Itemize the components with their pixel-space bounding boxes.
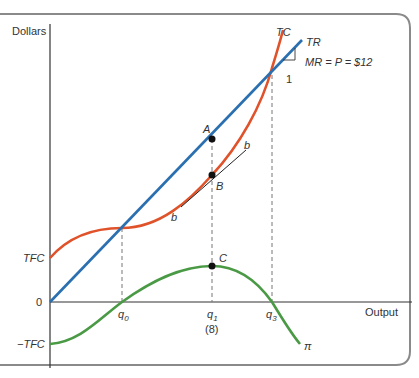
y-axis-label: Dollars [12,25,47,37]
point-a-marker [209,136,216,143]
tr-label: TR [306,36,321,48]
tangent-b-upper-label: b [244,139,250,151]
point-c-label: C [219,252,227,264]
mr-equation-label: MR = P = $12 [305,56,372,68]
profit-max-chart: Dollars Output TFC 0 −TFC q0 q1 (8) q3 T… [0,0,419,378]
slope-run-label: 1 [286,73,292,85]
tangent-b-lower-label: b [171,211,177,223]
q1-value-label: (8) [205,323,218,335]
point-c-marker [209,263,216,270]
point-b-marker [209,172,216,179]
q1-label: q1 [207,308,218,323]
pi-label-visible: π [304,340,312,352]
q3-label: q3 [266,308,277,323]
x-axis-label: Output [365,306,398,318]
point-a-label: A [202,123,210,135]
origin-label: 0 [36,296,42,308]
neg-tfc-label: −TFC [17,338,45,350]
profit-curve [50,266,300,344]
tr-line [50,40,302,302]
tfc-label: TFC [23,252,44,264]
tc-label: TC [276,26,291,38]
tangent-line-bb [181,150,246,207]
q0-label: q0 [118,308,129,323]
point-b-label: B [216,180,223,192]
